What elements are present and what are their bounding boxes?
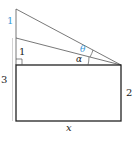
alpha-label: α bbox=[76, 54, 82, 64]
rectangle bbox=[16, 65, 121, 121]
right-angle-marker bbox=[16, 59, 22, 65]
bottom-side-label: x bbox=[66, 122, 72, 133]
top-segment-label: 1 bbox=[7, 15, 13, 26]
geometry-diagram bbox=[0, 0, 137, 141]
alpha-arc bbox=[88, 57, 89, 65]
right-side-label: 2 bbox=[126, 87, 132, 98]
left-side-label: 3 bbox=[1, 74, 7, 85]
upper-ray bbox=[16, 9, 121, 65]
lower-ray bbox=[16, 38, 121, 65]
theta-label: θ bbox=[80, 44, 85, 54]
theta-arc bbox=[90, 50, 93, 57]
middle-segment-label: 1 bbox=[19, 46, 25, 57]
